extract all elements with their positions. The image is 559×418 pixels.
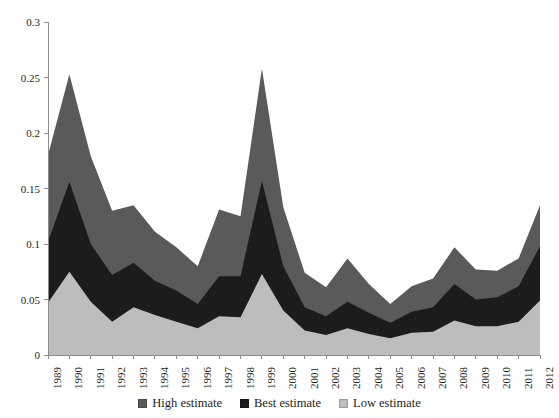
y-tick-label: 0.2 xyxy=(0,128,40,139)
x-tick-label: 1991 xyxy=(95,367,106,389)
x-tick-label: 1996 xyxy=(202,367,213,389)
legend-item[interactable]: Low estimate xyxy=(339,396,421,411)
x-tick-label: 2008 xyxy=(458,367,469,389)
y-tick-label: 0.15 xyxy=(0,184,40,195)
x-tick-label: 1995 xyxy=(180,367,191,389)
x-tick-label: 2003 xyxy=(351,367,362,389)
y-tick-label: 0 xyxy=(0,350,40,361)
x-tick-label: 2004 xyxy=(373,367,384,389)
x-tick-label: 2010 xyxy=(501,367,512,389)
x-tick-label: 1990 xyxy=(73,367,84,389)
legend-swatch-icon xyxy=(240,399,249,408)
legend-label: High estimate xyxy=(152,396,222,411)
x-tick-label: 1999 xyxy=(266,367,277,389)
y-tick-label: 0.25 xyxy=(0,73,40,84)
y-tick-label: 0.05 xyxy=(0,295,40,306)
chart-legend: High estimateBest estimateLow estimate xyxy=(0,396,559,411)
x-tick-label: 2005 xyxy=(394,367,405,389)
x-tick-label: 2006 xyxy=(416,367,427,389)
x-tick-label: 1992 xyxy=(116,367,127,389)
x-tick-label: 2007 xyxy=(437,367,448,389)
legend-swatch-icon xyxy=(138,399,147,408)
legend-label: Low estimate xyxy=(353,396,421,411)
stacked-area-chart xyxy=(0,0,559,418)
x-tick-label: 2001 xyxy=(309,367,320,389)
y-tick-label: 0.1 xyxy=(0,239,40,250)
legend-swatch-icon xyxy=(339,399,348,408)
chart-figure: 00.050.10.150.20.250.3 19891990199119921… xyxy=(0,0,559,418)
x-tick-label: 1993 xyxy=(138,367,149,389)
x-tick-label: 1989 xyxy=(52,367,63,389)
plot-area xyxy=(48,69,540,355)
x-tick-label: 1997 xyxy=(223,367,234,389)
x-tick-label: 2002 xyxy=(330,367,341,389)
legend-label: Best estimate xyxy=(254,396,321,411)
y-tick-label: 0.3 xyxy=(0,17,40,28)
x-tick-label: 2011 xyxy=(523,367,534,389)
x-tick-label: 1994 xyxy=(159,367,170,389)
x-tick-label: 2009 xyxy=(480,367,491,389)
legend-item[interactable]: Best estimate xyxy=(240,396,321,411)
legend-item[interactable]: High estimate xyxy=(138,396,222,411)
x-tick-label: 1998 xyxy=(245,367,256,389)
x-tick-label: 2000 xyxy=(287,367,298,389)
x-tick-label: 2012 xyxy=(544,367,555,389)
